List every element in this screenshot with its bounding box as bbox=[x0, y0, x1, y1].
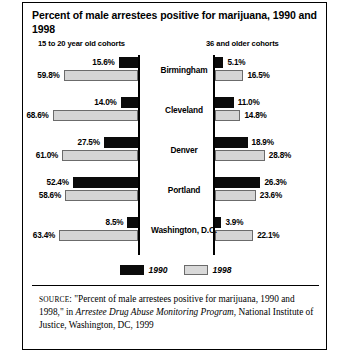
legend-label-1998: 1998 bbox=[213, 265, 232, 275]
bar-left-1990-denver bbox=[104, 137, 138, 148]
bar-left-1998-denver bbox=[62, 150, 138, 161]
figure-panel: Percent of male arrestees positive for m… bbox=[22, 2, 327, 350]
bar-left-1990-portland bbox=[73, 177, 138, 188]
legend-item-1990: 1990 bbox=[120, 265, 168, 275]
bar-left-1990-birmingham bbox=[119, 57, 138, 68]
left-axis-line bbox=[138, 55, 140, 255]
bar-value-label: 68.6% bbox=[26, 110, 48, 121]
source-divider bbox=[32, 285, 319, 286]
bar-value-label: 14.0% bbox=[94, 97, 116, 108]
bar-value-label: 3.9% bbox=[225, 217, 243, 228]
source-prefix: SOURCE bbox=[39, 295, 69, 304]
bar-value-label: 14.8% bbox=[244, 110, 266, 121]
category-label-washington-d-c: Washington, D.C. bbox=[141, 225, 227, 235]
bar-value-label: 27.5% bbox=[78, 137, 100, 148]
source-note: SOURCE: "Percent of male arrestees posit… bbox=[39, 293, 314, 331]
category-label-birmingham: Birmingham bbox=[141, 65, 227, 75]
bar-value-label: 8.5% bbox=[106, 217, 124, 228]
bar-value-label: 22.1% bbox=[257, 230, 279, 241]
bar-left-1990-washington-d-c bbox=[127, 217, 138, 228]
bar-value-label: 15.6% bbox=[92, 57, 114, 68]
bar-value-label: 16.5% bbox=[247, 70, 269, 81]
bar-left-1998-cleveland bbox=[53, 110, 138, 121]
legend-swatch-1998-icon bbox=[184, 265, 208, 275]
bar-value-label: 26.3% bbox=[264, 177, 286, 188]
chart-plot-area: 15.6%59.8%5.1%16.5%14.0%68.6%11.0%14.8%2… bbox=[23, 55, 328, 260]
right-cohort-header: 36 and older cohorts bbox=[206, 39, 279, 48]
bar-value-label: 23.6% bbox=[260, 190, 282, 201]
left-cohort-header: 15 to 20 year old cohorts bbox=[38, 39, 125, 48]
category-label-portland: Portland bbox=[141, 185, 227, 195]
bar-value-label: 59.8% bbox=[37, 70, 59, 81]
bar-value-label: 5.1% bbox=[227, 57, 245, 68]
bar-left-1998-birmingham bbox=[64, 70, 138, 81]
source-publication-title: Arrestee Drug Abuse Monitoring Program bbox=[76, 307, 234, 317]
bar-value-label: 28.8% bbox=[269, 150, 291, 161]
category-label-denver: Denver bbox=[141, 145, 227, 155]
legend-swatch-1990-icon bbox=[120, 265, 144, 275]
bar-value-label: 61.0% bbox=[36, 150, 58, 161]
bar-value-label: 58.6% bbox=[39, 190, 61, 201]
page-title: Percent of male arrestees positive for m… bbox=[32, 9, 320, 36]
bar-value-label: 18.9% bbox=[252, 137, 274, 148]
bar-left-1998-washington-d-c bbox=[59, 230, 138, 241]
bar-value-label: 63.4% bbox=[33, 230, 55, 241]
legend-label-1990: 1990 bbox=[149, 265, 168, 275]
bar-value-label: 11.0% bbox=[238, 97, 260, 108]
legend-item-1998: 1998 bbox=[184, 265, 232, 275]
bar-value-label: 52.4% bbox=[47, 177, 69, 188]
bar-left-1990-cleveland bbox=[121, 97, 138, 108]
bar-left-1998-portland bbox=[65, 190, 138, 201]
category-label-cleveland: Cleveland bbox=[141, 105, 227, 115]
chart-legend: 1990 1998 bbox=[23, 265, 328, 275]
